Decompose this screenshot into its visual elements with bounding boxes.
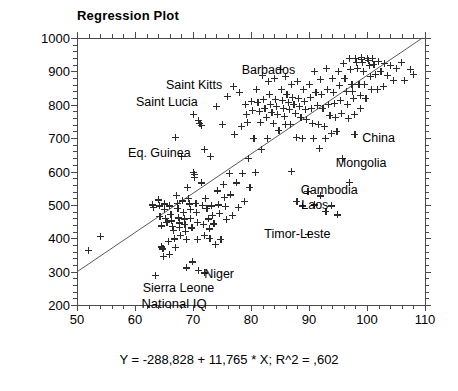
y-tick-major <box>71 105 77 106</box>
data-point <box>306 81 313 88</box>
y-tick-minor <box>73 65 77 66</box>
regression-equation: Y = -288,828 + 11,765 * X; R^2 = ,602 <box>119 352 338 367</box>
data-point <box>274 111 281 118</box>
y-tick-major <box>71 38 77 39</box>
y-tick-right <box>425 212 429 213</box>
data-point <box>333 128 340 135</box>
y-tick-minor <box>73 292 77 293</box>
data-point <box>275 127 282 134</box>
data-point <box>253 86 260 93</box>
data-point <box>390 77 397 84</box>
data-point <box>344 101 351 108</box>
data-point <box>202 195 209 202</box>
x-tick-major <box>425 305 426 311</box>
y-tick-right <box>425 272 431 273</box>
data-point <box>183 264 190 271</box>
y-tick-right <box>425 131 429 132</box>
x-tick-top <box>216 34 217 38</box>
y-tick-label: 700 <box>24 131 70 146</box>
x-tick-minor <box>332 305 333 309</box>
data-point <box>258 146 265 153</box>
x-tick-minor <box>228 305 229 309</box>
data-point <box>249 107 256 114</box>
y-tick-minor <box>73 212 77 213</box>
x-tick-minor <box>263 305 264 309</box>
x-tick-minor <box>286 305 287 309</box>
x-tick-top <box>263 34 264 38</box>
y-tick-right <box>425 45 429 46</box>
y-tick-minor <box>73 278 77 279</box>
x-tick-top <box>274 34 275 38</box>
data-point <box>227 191 234 198</box>
data-point <box>337 97 344 104</box>
data-point <box>348 81 355 88</box>
y-tick-right <box>425 258 429 259</box>
y-tick-label: 800 <box>24 97 70 112</box>
x-tick-top <box>135 32 136 38</box>
data-point <box>334 211 341 218</box>
y-tick-minor <box>73 85 77 86</box>
x-tick-top <box>158 34 159 38</box>
x-tick-major <box>367 305 368 311</box>
data-point <box>222 203 229 210</box>
y-tick-right <box>425 232 429 233</box>
y-tick-minor <box>73 285 77 286</box>
x-tick-minor <box>297 305 298 309</box>
y-tick-minor <box>73 125 77 126</box>
y-tick-label: 400 <box>24 231 70 246</box>
data-point <box>208 202 215 209</box>
y-tick-label: 300 <box>24 264 70 279</box>
x-tick-top <box>112 34 113 38</box>
data-point <box>264 135 271 142</box>
data-point <box>233 179 240 186</box>
data-point <box>191 174 198 181</box>
data-point <box>330 89 337 96</box>
data-point <box>215 201 222 208</box>
data-point <box>220 181 227 188</box>
x-tick-minor <box>274 305 275 309</box>
x-tick-top <box>321 34 322 38</box>
y-tick-minor <box>73 245 77 246</box>
data-point <box>152 272 159 279</box>
data-point <box>246 184 253 191</box>
x-tick-top <box>390 34 391 38</box>
y-tick-right <box>425 165 429 166</box>
y-tick-right <box>425 111 429 112</box>
data-point <box>361 81 368 88</box>
point-annotation-timor-leste: Timor-Leste <box>264 227 330 241</box>
data-point <box>316 145 323 152</box>
y-tick-minor <box>73 98 77 99</box>
data-point <box>299 135 306 142</box>
point-annotation-cambodia: Cambodia <box>301 183 358 197</box>
data-point <box>338 110 345 117</box>
data-point <box>209 212 216 219</box>
y-tick-major <box>71 71 77 72</box>
y-tick-minor <box>73 232 77 233</box>
y-tick-right <box>425 85 429 86</box>
data-point <box>193 209 200 216</box>
y-tick-minor <box>73 218 77 219</box>
point-annotation-saint-lucia: Saint Lucia <box>136 95 198 109</box>
y-tick-right <box>425 158 429 159</box>
y-tick-minor <box>73 192 77 193</box>
y-tick-major <box>71 272 77 273</box>
data-point <box>248 98 255 105</box>
x-tick-minor <box>112 305 113 309</box>
data-point <box>198 122 205 129</box>
y-tick-right <box>425 138 431 139</box>
data-point <box>317 76 324 83</box>
x-tick-top <box>123 34 124 38</box>
y-tick-minor <box>73 45 77 46</box>
y-tick-right <box>425 98 429 99</box>
data-point <box>393 65 400 72</box>
y-tick-major <box>71 172 77 173</box>
y-tick-right <box>425 278 429 279</box>
y-tick-right <box>425 265 429 266</box>
y-tick-minor <box>73 265 77 266</box>
data-point <box>410 71 417 78</box>
data-point <box>350 95 357 102</box>
x-tick-top <box>309 32 310 38</box>
data-point <box>380 83 387 90</box>
y-tick-label: 1000 <box>24 31 70 46</box>
x-tick-top <box>100 34 101 38</box>
